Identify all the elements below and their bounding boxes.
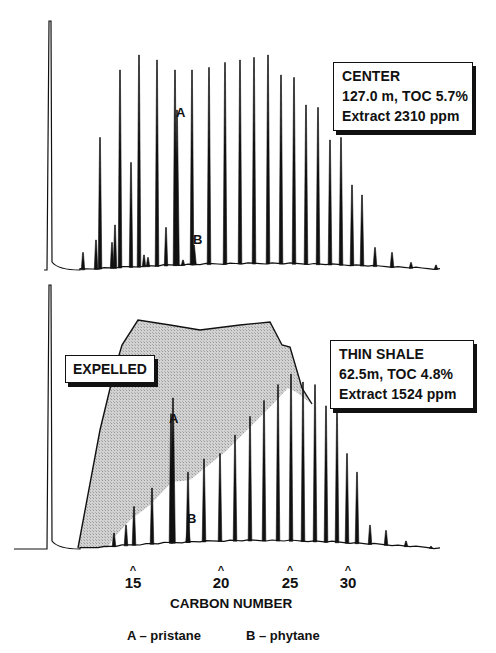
center-sample-depth-toc: 127.0 m, TOC 5.7% — [342, 86, 464, 106]
thin-shale-extract: Extract 1524 ppm — [339, 384, 465, 404]
peak — [429, 546, 433, 548]
thin-shale-depth-toc: 62.5m, TOC 4.8% — [339, 364, 465, 384]
center-sample-title: CENTER — [342, 66, 464, 86]
peak — [328, 140, 332, 265]
peak — [118, 70, 122, 268]
peak — [404, 541, 408, 547]
legend-pristane: A – pristane — [127, 628, 201, 643]
peak — [324, 406, 328, 542]
peak — [316, 108, 320, 265]
peak — [304, 105, 308, 264]
peak — [373, 248, 377, 267]
peak — [129, 163, 132, 268]
peak — [339, 138, 343, 266]
x-tick-25: ^ 25 — [270, 565, 310, 591]
peak — [409, 263, 413, 269]
peak — [207, 68, 211, 265]
peak — [98, 138, 102, 269]
peak — [137, 55, 141, 267]
peak — [155, 60, 159, 266]
expelled-label: EXPELLED — [65, 355, 155, 383]
peak — [248, 417, 252, 542]
peak — [146, 258, 149, 267]
peak — [355, 472, 359, 544]
baseline — [44, 21, 440, 270]
peak — [252, 58, 256, 265]
peak — [124, 525, 128, 546]
peak — [289, 374, 293, 541]
peak — [94, 240, 97, 269]
bottom-peak-b-label: B — [187, 512, 196, 525]
bottom-chromatogram — [14, 285, 440, 549]
peak — [384, 530, 388, 545]
chromatogram-figure: CENTER 127.0 m, TOC 5.7% Extract 2310 pp… — [0, 0, 496, 653]
peak — [301, 382, 305, 542]
peak — [202, 459, 206, 542]
top-chromatogram — [44, 21, 440, 270]
center-sample-extract: Extract 2310 ppm — [342, 106, 464, 126]
peak — [279, 75, 283, 264]
thin-shale-title: THIN SHALE — [339, 344, 465, 364]
peak — [113, 225, 116, 268]
peak — [292, 78, 296, 265]
top-peak-b-label: B — [193, 233, 202, 246]
peak — [350, 185, 354, 266]
peak — [218, 454, 222, 542]
peak — [238, 60, 242, 264]
x-axis-label: CARBON NUMBER — [170, 596, 292, 611]
peak — [313, 385, 317, 542]
peak — [233, 435, 237, 541]
peak — [434, 265, 438, 270]
peak — [142, 255, 145, 267]
x-tick-15: ^ 15 — [113, 565, 153, 591]
bottom-peak-a-label: A — [169, 412, 178, 425]
peak — [81, 253, 84, 270]
x-tick-20: ^ 20 — [201, 565, 241, 591]
thin-shale-sample-box: THIN SHALE 62.5m, TOC 4.8% Extract 1524 … — [330, 340, 474, 409]
center-sample-box: CENTER 127.0 m, TOC 5.7% Extract 2310 pp… — [333, 62, 473, 131]
peak — [360, 195, 364, 266]
peak — [266, 55, 270, 264]
peak — [164, 228, 167, 266]
peak — [276, 385, 280, 541]
peak — [345, 454, 349, 544]
peak — [223, 63, 227, 265]
peak — [368, 525, 372, 544]
legend-phytane: B – phytane — [246, 628, 320, 643]
peak — [390, 253, 394, 268]
peak — [262, 401, 266, 541]
peak — [181, 260, 184, 265]
top-peak-a-label: A — [176, 106, 185, 119]
x-tick-30: ^ 30 — [328, 565, 368, 591]
peak — [335, 411, 339, 543]
